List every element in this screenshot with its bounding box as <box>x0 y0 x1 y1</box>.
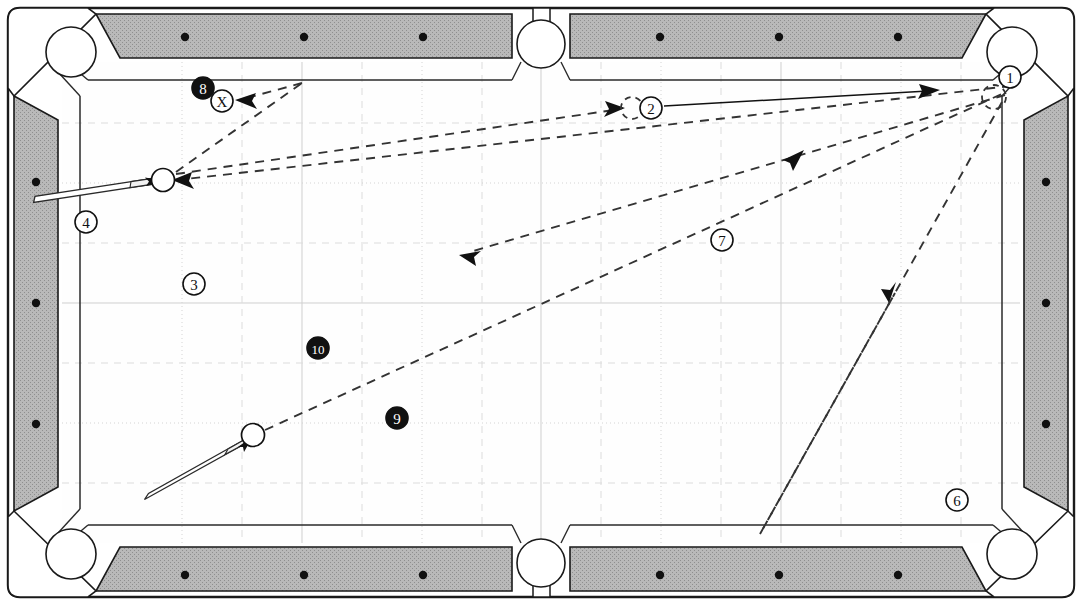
bottom-left-pocket[interactable] <box>46 529 96 579</box>
label-2: 2 <box>640 97 662 119</box>
cue-ball-lower[interactable] <box>242 424 265 447</box>
label-1-text: 1 <box>1006 70 1014 86</box>
bottom-center-pocket[interactable] <box>517 539 565 587</box>
rail-spot-icon <box>656 571 664 579</box>
label-8: 8 <box>192 77 214 99</box>
rail-spot-icon <box>1042 420 1050 428</box>
cue-ball-upper[interactable] <box>152 169 175 192</box>
rail-spot-icon <box>775 571 783 579</box>
rail-spot-icon <box>775 33 783 41</box>
rail-spot-icon <box>894 33 902 41</box>
label-6-text: 6 <box>953 493 961 509</box>
rail-spot-icon <box>1042 299 1050 307</box>
label-x-text: X <box>217 94 228 110</box>
bottom-right-pocket[interactable] <box>987 529 1037 579</box>
rail-spot-icon <box>181 33 189 41</box>
top-left-pocket[interactable] <box>46 27 96 77</box>
label-2-text: 2 <box>647 101 655 117</box>
label-7-text: 7 <box>718 233 726 249</box>
rail-spot-icon <box>32 299 40 307</box>
rail-spot-icon <box>1042 178 1050 186</box>
rail-spot-icon <box>419 571 427 579</box>
rail-spot-icon <box>656 33 664 41</box>
label-6: 6 <box>946 489 968 511</box>
rail-spot-icon <box>894 571 902 579</box>
label-10: 10 <box>307 337 329 359</box>
rail-spot-icon <box>32 178 40 186</box>
label-3-text: 3 <box>190 277 198 293</box>
label-7: 7 <box>711 229 733 251</box>
label-8-text: 8 <box>199 81 207 97</box>
pool-diagram-stage: 8 X 4 3 10 9 <box>0 0 1082 605</box>
label-9: 9 <box>386 407 408 429</box>
label-10-text: 10 <box>312 342 325 357</box>
label-1: 1 <box>999 66 1021 88</box>
top-center-pocket[interactable] <box>517 20 565 68</box>
label-4-text: 4 <box>82 215 90 231</box>
rail-spot-icon <box>419 33 427 41</box>
label-x: X <box>211 90 233 112</box>
label-3: 3 <box>183 273 205 295</box>
pool-table-diagram: 8 X 4 3 10 9 <box>0 0 1082 605</box>
rail-spot-icon <box>300 33 308 41</box>
label-4: 4 <box>75 211 97 233</box>
rail-spot-icon <box>300 571 308 579</box>
rail-spot-icon <box>32 420 40 428</box>
label-9-text: 9 <box>393 411 401 427</box>
rail-spot-icon <box>181 571 189 579</box>
